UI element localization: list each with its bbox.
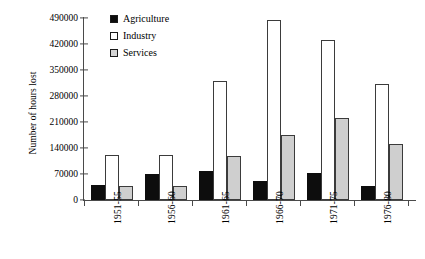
x-tick-6 <box>408 200 409 206</box>
legend-item-industry: Industry <box>110 31 169 41</box>
bar-group: 1961-65 <box>192 18 246 200</box>
legend-label: Industry <box>123 31 156 41</box>
bar-group: 1976-80 <box>354 18 408 200</box>
y-tick-label-7: 490000 <box>50 13 85 23</box>
bar-agriculture <box>361 186 375 200</box>
x-axis-label: 1971-75 <box>329 191 339 224</box>
legend-item-agriculture: Agriculture <box>110 14 169 24</box>
y-tick-label-3: 210000 <box>50 117 85 127</box>
bar-agriculture <box>307 173 321 200</box>
y-tick-label-5: 350000 <box>50 65 85 75</box>
y-tick-label-4: 280000 <box>50 91 85 101</box>
y-tick-label-0: 0 <box>73 195 84 205</box>
legend: Agriculture Industry Services <box>110 14 169 65</box>
legend-label: Agriculture <box>123 14 169 24</box>
bar-agriculture <box>91 185 105 200</box>
bar-industry <box>321 40 335 200</box>
x-tick-3 <box>246 200 247 206</box>
y-axis-title: Number of hours lost <box>28 33 38 193</box>
bar-industry <box>267 20 281 200</box>
legend-swatch-icon <box>110 32 118 40</box>
x-axis-label: 1951-55 <box>113 191 123 224</box>
bar-agriculture <box>253 181 267 200</box>
y-tick-label-2: 140000 <box>50 143 85 153</box>
bar-services <box>335 118 349 200</box>
x-axis-label: 1966-70 <box>275 191 285 224</box>
bar-agriculture <box>145 174 159 200</box>
y-tick-label-1: 70000 <box>54 169 84 179</box>
x-axis-label: 1956-60 <box>167 191 177 224</box>
bar-agriculture <box>199 171 213 200</box>
bar-industry <box>375 84 389 200</box>
x-tick-5 <box>354 200 355 206</box>
y-tick-label-6: 420000 <box>50 39 85 49</box>
legend-label: Services <box>123 48 157 58</box>
bar-industry <box>213 81 227 200</box>
legend-swatch-icon <box>110 15 118 23</box>
x-tick-1 <box>138 200 139 206</box>
bar-group: 1971-75 <box>300 18 354 200</box>
x-tick-4 <box>300 200 301 206</box>
x-axis-label: 1961-65 <box>221 191 231 224</box>
x-axis-label: 1976-80 <box>383 191 393 224</box>
bar-group: 1966-70 <box>246 18 300 200</box>
x-tick-0 <box>84 200 85 206</box>
x-tick-2 <box>192 200 193 206</box>
bar-chart: Number of hours lost 0 70000 140000 2100… <box>0 0 425 259</box>
legend-swatch-icon <box>110 49 118 57</box>
legend-item-services: Services <box>110 48 169 58</box>
